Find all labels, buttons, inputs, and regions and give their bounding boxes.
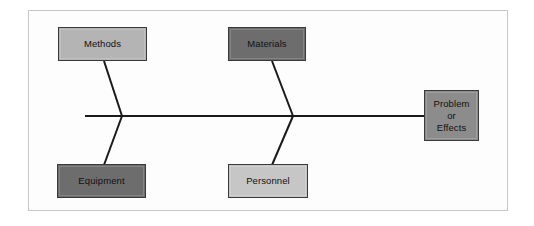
node-methods-label: Methods [82, 38, 123, 50]
node-personnel-label: Personnel [244, 175, 292, 187]
node-methods[interactable]: Methods [58, 27, 147, 61]
node-materials-label: Materials [245, 38, 288, 50]
node-personnel[interactable]: Personnel [228, 164, 308, 198]
node-problem-or-effects[interactable]: Problem or Effects [424, 90, 479, 141]
node-problem-or-effects-label: Problem or Effects [431, 98, 471, 134]
diagram-canvas: Methods Materials Equipment Personnel Pr… [0, 0, 534, 226]
node-equipment-label: Equipment [76, 175, 126, 187]
node-equipment[interactable]: Equipment [57, 164, 146, 198]
node-materials[interactable]: Materials [228, 27, 306, 61]
